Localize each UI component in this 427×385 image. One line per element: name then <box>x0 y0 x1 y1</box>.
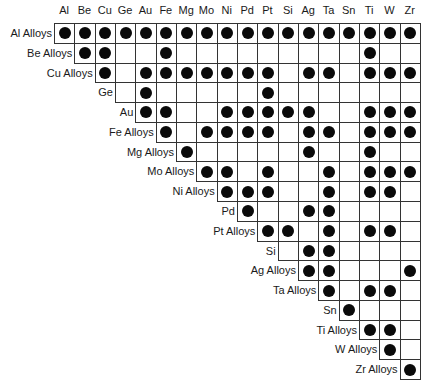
matrix-cell <box>176 142 197 163</box>
compatible-dot-icon <box>242 27 254 39</box>
compatible-dot-icon <box>384 324 396 336</box>
matrix-cell <box>318 63 339 84</box>
compatible-dot-icon <box>201 27 213 39</box>
compatible-dot-icon <box>384 186 396 198</box>
matrix-cell <box>278 122 299 143</box>
compatible-dot-icon <box>323 126 335 138</box>
column-header: Ag <box>298 4 318 16</box>
matrix-cell <box>237 43 258 64</box>
matrix-cell <box>278 142 299 163</box>
column-header: Zr <box>400 4 420 16</box>
compatible-dot-icon <box>181 146 193 158</box>
matrix-cell <box>359 241 380 262</box>
column-header: Be <box>74 4 94 16</box>
matrix-cell <box>176 102 197 123</box>
compatible-dot-icon <box>404 67 416 79</box>
compatible-dot-icon <box>282 225 294 237</box>
column-header: Cu <box>95 4 115 16</box>
matrix-cell <box>400 300 421 321</box>
compatible-dot-icon <box>404 27 416 39</box>
compatible-dot-icon <box>282 106 294 118</box>
matrix-cell <box>379 300 400 321</box>
compatible-dot-icon <box>201 166 213 178</box>
matrix-cell <box>298 43 319 64</box>
row-label: Pt Alloys <box>213 221 255 241</box>
matrix-cell <box>339 181 360 202</box>
matrix-cell <box>278 201 299 222</box>
compatible-dot-icon <box>323 67 335 79</box>
matrix-cell <box>135 43 156 64</box>
matrix-cell <box>400 43 421 64</box>
compatible-dot-icon <box>384 27 396 39</box>
matrix-cell <box>278 63 299 84</box>
matrix-cell <box>176 82 197 103</box>
column-header: Ni <box>217 4 237 16</box>
matrix-cell <box>257 181 278 202</box>
compatible-dot-icon <box>140 67 152 79</box>
matrix-cell <box>237 82 258 103</box>
compatible-dot-icon <box>303 27 315 39</box>
matrix-cell <box>298 82 319 103</box>
matrix-cell <box>196 142 217 163</box>
matrix-cell <box>196 43 217 64</box>
matrix-cell <box>95 43 116 64</box>
matrix-cell <box>257 142 278 163</box>
matrix-cell <box>339 221 360 242</box>
matrix-cell <box>176 122 197 143</box>
matrix-cell <box>379 102 400 123</box>
matrix-cell <box>278 161 299 182</box>
compatible-dot-icon <box>323 27 335 39</box>
matrix-cell <box>257 221 278 242</box>
compatible-dot-icon <box>404 166 416 178</box>
matrix-cell <box>359 161 380 182</box>
compatible-dot-icon <box>242 106 254 118</box>
compatible-dot-icon <box>181 27 193 39</box>
matrix-cell <box>135 63 156 84</box>
column-header: Mo <box>196 4 216 16</box>
compatible-dot-icon <box>59 27 71 39</box>
matrix-cell <box>379 339 400 360</box>
compatible-dot-icon <box>99 47 111 59</box>
matrix-cell <box>359 300 380 321</box>
matrix-cell <box>400 161 421 182</box>
matrix-cell <box>135 82 156 103</box>
compatible-dot-icon <box>160 67 172 79</box>
compatible-dot-icon <box>323 245 335 257</box>
row-label: Ta Alloys <box>273 280 316 300</box>
compatible-dot-icon <box>262 225 274 237</box>
matrix-cell <box>318 142 339 163</box>
column-header: Mg <box>176 4 196 16</box>
row-label: Al Alloys <box>10 23 52 43</box>
matrix-cell <box>400 23 421 44</box>
matrix-cell <box>196 122 217 143</box>
column-header: Fe <box>156 4 176 16</box>
row-label: Si <box>266 241 276 261</box>
compatible-dot-icon <box>140 106 152 118</box>
compatible-dot-icon <box>303 126 315 138</box>
matrix-cell <box>237 142 258 163</box>
matrix-cell <box>318 23 339 44</box>
compatible-dot-icon <box>160 126 172 138</box>
compatible-dot-icon <box>262 87 274 99</box>
matrix-cell <box>217 161 238 182</box>
matrix-cell <box>196 102 217 123</box>
column-header: Pt <box>257 4 277 16</box>
matrix-cell <box>400 82 421 103</box>
matrix-cell <box>237 63 258 84</box>
row-label: Ag Alloys <box>251 260 296 280</box>
matrix-cell <box>217 23 238 44</box>
matrix-cell <box>257 63 278 84</box>
column-header: Ge <box>115 4 135 16</box>
matrix-cell <box>400 221 421 242</box>
matrix-cell <box>359 43 380 64</box>
compatible-dot-icon <box>221 67 233 79</box>
matrix-cell <box>156 102 177 123</box>
matrix-cell <box>318 260 339 281</box>
compatible-dot-icon <box>303 245 315 257</box>
matrix-cell <box>298 241 319 262</box>
matrix-cell <box>237 181 258 202</box>
column-header: W <box>379 4 399 16</box>
matrix-cell <box>379 43 400 64</box>
matrix-cell <box>278 23 299 44</box>
matrix-cell <box>217 63 238 84</box>
